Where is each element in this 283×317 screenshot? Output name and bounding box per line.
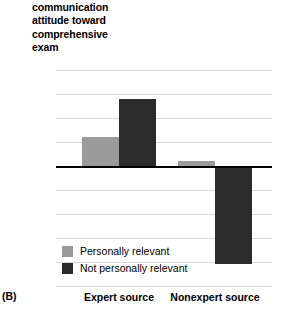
gridline <box>56 286 272 287</box>
bar-chart-figure: communication attitude toward comprehens… <box>0 0 283 317</box>
gridline <box>56 70 272 71</box>
legend-item-not-personally-relevant: Not personally relevant <box>62 260 187 277</box>
bar <box>215 166 252 264</box>
y-axis-title: communication attitude toward comprehens… <box>32 1 182 54</box>
chart-legend: Personally relevant Not personally relev… <box>62 243 187 277</box>
gridline <box>56 118 272 119</box>
gridline <box>56 94 272 95</box>
legend-item-personally-relevant: Personally relevant <box>62 243 187 260</box>
bar <box>119 99 156 166</box>
legend-label: Not personally relevant <box>80 263 187 274</box>
panel-label: (B) <box>2 290 17 302</box>
x-axis-tick-label: Nonexpert source <box>145 291 283 303</box>
zero-axis-line <box>56 166 272 168</box>
legend-swatch-icon <box>62 246 73 257</box>
legend-label: Personally relevant <box>80 246 169 257</box>
bar <box>82 137 119 166</box>
legend-swatch-icon <box>62 263 73 274</box>
